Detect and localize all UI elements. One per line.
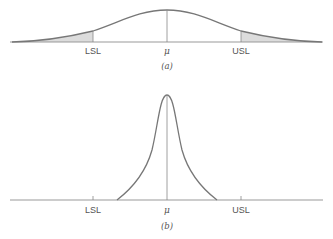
caption-b: (b) xyxy=(161,221,173,231)
usl-label-a: USL xyxy=(232,46,250,56)
mean-label-a: μ xyxy=(164,46,170,56)
caption-a: (a) xyxy=(161,61,173,71)
panel-b: LSL μ USL (b) xyxy=(10,95,323,231)
mean-label-b: μ xyxy=(164,205,170,215)
lsl-label-a: LSL xyxy=(85,46,101,56)
lsl-tail-shade xyxy=(12,31,93,42)
usl-tail-shade xyxy=(241,31,322,42)
usl-label-b: USL xyxy=(232,205,250,215)
lsl-label-b: LSL xyxy=(85,205,101,215)
panel-a: LSL μ USL (a) xyxy=(10,10,323,71)
process-capability-diagram: LSL μ USL (a) LSL μ USL (b) xyxy=(0,0,333,239)
